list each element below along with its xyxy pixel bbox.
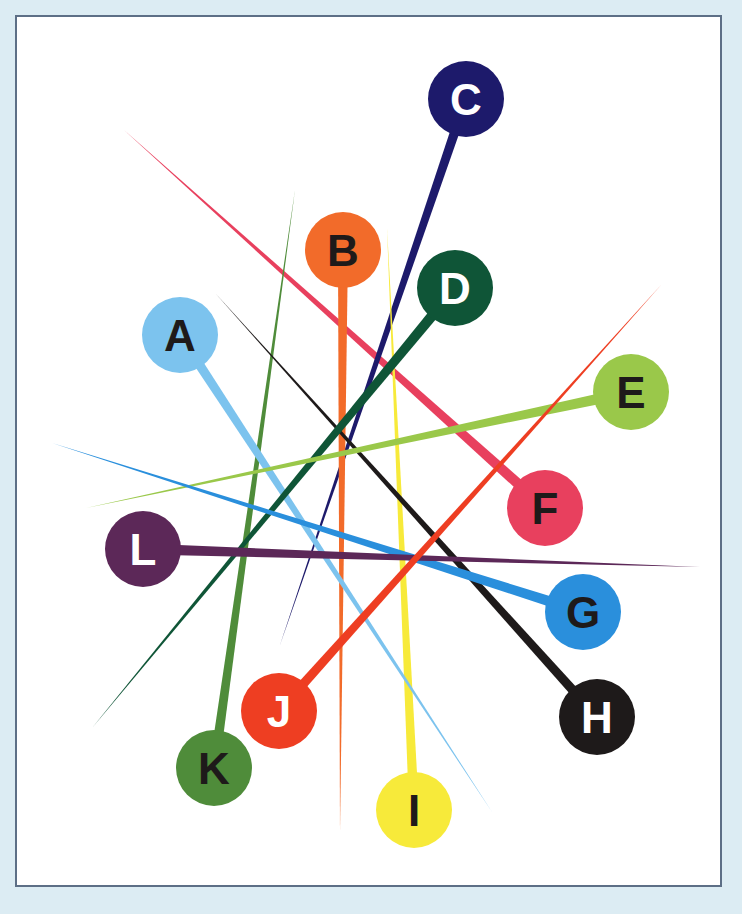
- pin-label: B: [327, 226, 359, 275]
- pin-label: I: [408, 786, 420, 835]
- pin-f: F: [507, 470, 583, 546]
- pin-e: E: [593, 354, 669, 430]
- tangled-lines-puzzle: ABCDEFGHIJKL: [0, 0, 742, 914]
- pin-label: L: [130, 525, 157, 574]
- pin-d: D: [417, 250, 493, 326]
- pin-label: E: [616, 368, 645, 417]
- needle-b: [338, 250, 348, 832]
- pin-label: A: [164, 311, 196, 360]
- pin-label: C: [450, 75, 482, 124]
- pin-a: A: [142, 297, 218, 373]
- pin-label: D: [439, 264, 471, 313]
- needle-c: [280, 97, 471, 645]
- pin-g: G: [545, 574, 621, 650]
- pin-label: F: [532, 484, 559, 533]
- pin-heads-layer: ABCDEFGHIJKL: [105, 61, 669, 848]
- pin-label: J: [267, 687, 291, 736]
- needle-i: [387, 228, 419, 810]
- pin-h: H: [559, 679, 635, 755]
- pin-j: J: [241, 673, 317, 749]
- pin-l: L: [105, 511, 181, 587]
- pin-label: K: [198, 744, 230, 793]
- pin-label: G: [566, 588, 600, 637]
- pin-k: K: [176, 730, 252, 806]
- pin-b: B: [305, 212, 381, 288]
- pin-i: I: [376, 772, 452, 848]
- pin-c: C: [428, 61, 504, 137]
- needle-j: [275, 285, 661, 714]
- pin-label: H: [581, 693, 613, 742]
